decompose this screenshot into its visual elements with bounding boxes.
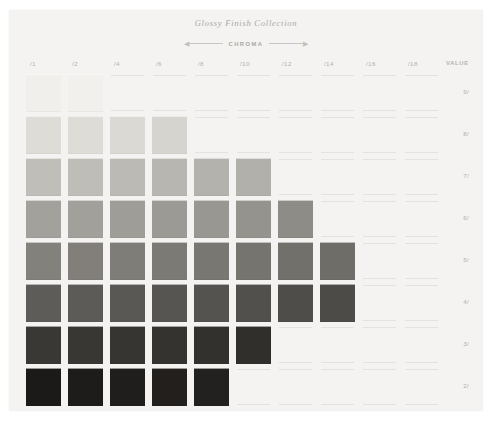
chroma-axis: ◀ CHROMA ▶ <box>9 40 483 47</box>
column-header-chroma-4: /4 <box>114 60 120 67</box>
column-header-chroma-6: /6 <box>156 60 162 67</box>
color-chart-card: Glossy Finish Collection ◀ CHROMA ▶ /1/2… <box>9 10 483 411</box>
empty-slot-line <box>405 404 438 405</box>
column-header-chroma-12: /12 <box>282 60 292 67</box>
value-label-8: 8/ <box>463 130 469 137</box>
value-label-3: 3/ <box>463 340 469 347</box>
column-header-row: /1/2/4/6/8/10/12/14/16/18VALUE <box>9 58 483 72</box>
column-header-chroma-10: /10 <box>240 60 250 67</box>
arrow-left-icon: ◀ <box>184 40 223 47</box>
empty-slot-line <box>237 404 270 405</box>
empty-slot-line <box>363 404 396 405</box>
arrow-right-glyph: ▶ <box>303 40 308 47</box>
value-label-9: 9/ <box>463 88 469 95</box>
empty-slot-line <box>279 404 312 405</box>
value-label-6: 6/ <box>463 214 469 221</box>
chroma-axis-label: CHROMA <box>228 41 263 47</box>
column-header-chroma-18: /18 <box>408 60 418 67</box>
value-label-2: 2/ <box>463 382 469 389</box>
column-header-chroma-8: /8 <box>198 60 204 67</box>
page-title: Glossy Finish Collection <box>9 18 483 28</box>
axis-line-right <box>269 43 303 44</box>
value-label-column: 9/8/7/6/5/4/3/2/ <box>9 74 483 404</box>
arrow-right-icon: ▶ <box>269 40 308 47</box>
value-label-5: 5/ <box>463 256 469 263</box>
empty-slot-line <box>321 404 354 405</box>
value-label-7: 7/ <box>463 172 469 179</box>
value-label-4: 4/ <box>463 298 469 305</box>
column-header-chroma-14: /14 <box>324 60 334 67</box>
column-header-chroma-2: /2 <box>72 60 78 67</box>
column-header-chroma-1: /1 <box>30 60 36 67</box>
axis-line-left <box>189 43 223 44</box>
column-header-value: VALUE <box>446 60 469 66</box>
column-header-chroma-16: /16 <box>366 60 376 67</box>
